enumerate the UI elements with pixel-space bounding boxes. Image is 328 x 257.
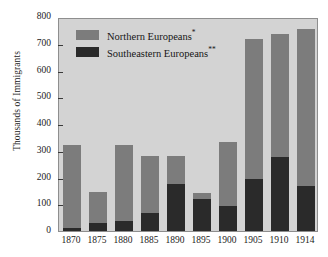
y-axis-tick-label: 600 bbox=[37, 65, 51, 75]
bar-segment-northern bbox=[63, 145, 81, 228]
bar-segment-southeastern bbox=[89, 223, 107, 231]
x-axis-label-1914: 1914 bbox=[292, 235, 318, 245]
y-axis-tick-mark bbox=[58, 179, 63, 180]
x-axis-label-1905: 1905 bbox=[240, 235, 266, 245]
bar-1905 bbox=[245, 39, 263, 231]
y-axis-tick-label: 800 bbox=[37, 11, 51, 21]
bar-segment-southeastern bbox=[193, 199, 211, 231]
bar-segment-southeastern bbox=[219, 206, 237, 231]
bar-segment-southeastern bbox=[245, 179, 263, 231]
bar-segment-northern bbox=[115, 145, 133, 221]
x-axis-label-1880: 1880 bbox=[110, 235, 136, 245]
bar-1885 bbox=[141, 156, 159, 231]
y-axis-tick-label: 300 bbox=[37, 145, 51, 155]
bar-segment-southeastern bbox=[141, 213, 159, 231]
bar-1875 bbox=[89, 192, 107, 231]
y-axis-tick-mark bbox=[58, 72, 63, 73]
bar-segment-southeastern bbox=[167, 184, 185, 231]
x-axis-label-1875: 1875 bbox=[84, 235, 110, 245]
bar-1910 bbox=[271, 34, 289, 231]
bar-segment-northern bbox=[193, 193, 211, 200]
chart-legend: Northern Europeans* Southeastern Europea… bbox=[76, 28, 216, 62]
legend-swatch-northern-icon bbox=[76, 30, 99, 40]
bar-segment-northern bbox=[271, 34, 289, 158]
y-axis-tick-label: 500 bbox=[37, 91, 51, 101]
bar-1890 bbox=[167, 156, 185, 231]
y-axis-tick-label: 100 bbox=[37, 198, 51, 208]
bar-segment-northern bbox=[297, 29, 315, 187]
bar-segment-southeastern bbox=[271, 157, 289, 231]
y-axis-tick-mark bbox=[58, 98, 63, 99]
y-axis-tick-mark bbox=[58, 205, 63, 206]
y-axis-tick-mark bbox=[58, 152, 63, 153]
bar-1895 bbox=[193, 193, 211, 231]
legend-swatch-southeastern-icon bbox=[76, 47, 99, 57]
y-axis-tick-mark bbox=[58, 125, 63, 126]
y-axis-tick-label: 0 bbox=[46, 225, 51, 235]
bar-segment-southeastern bbox=[63, 228, 81, 231]
bar-segment-southeastern bbox=[115, 221, 133, 231]
bar-1900 bbox=[219, 142, 237, 231]
x-axis-label-1885: 1885 bbox=[136, 235, 162, 245]
y-axis-tick-mark bbox=[58, 45, 63, 46]
x-axis-label-1910: 1910 bbox=[266, 235, 292, 245]
bar-segment-northern bbox=[167, 156, 185, 184]
bar-1880 bbox=[115, 145, 133, 231]
x-axis-label-1870: 1870 bbox=[58, 235, 84, 245]
bar-1914 bbox=[297, 29, 315, 231]
bar-segment-northern bbox=[89, 192, 107, 223]
y-axis-tick-label: 700 bbox=[37, 38, 51, 48]
bar-1870 bbox=[63, 145, 81, 231]
y-axis-tick-label: 200 bbox=[37, 172, 51, 182]
chart-figure: Thousands of Immigrants 0100200300400500… bbox=[0, 0, 328, 257]
y-axis-tick-label: 400 bbox=[37, 118, 51, 128]
legend-label-northern: Northern Europeans* bbox=[107, 28, 196, 42]
legend-label-southeastern: Southeastern Europeans** bbox=[107, 45, 216, 59]
legend-item-southeastern-europeans: Southeastern Europeans** bbox=[76, 45, 216, 59]
bar-segment-northern bbox=[141, 156, 159, 213]
x-axis-label-1900: 1900 bbox=[214, 235, 240, 245]
x-axis-label-1895: 1895 bbox=[188, 235, 214, 245]
legend-item-northern-europeans: Northern Europeans* bbox=[76, 28, 216, 42]
bar-segment-northern bbox=[219, 142, 237, 206]
bar-segment-southeastern bbox=[297, 186, 315, 231]
y-axis-title: Thousands of Immigrants bbox=[12, 16, 22, 186]
bar-segment-northern bbox=[245, 39, 263, 179]
x-axis-label-1890: 1890 bbox=[162, 235, 188, 245]
